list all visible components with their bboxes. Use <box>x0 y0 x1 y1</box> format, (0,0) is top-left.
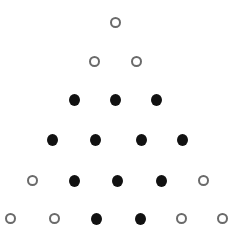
filled-circle-icon <box>90 134 101 146</box>
filled-circle-icon <box>177 134 188 146</box>
open-circle-icon <box>131 56 142 67</box>
open-circle-icon <box>89 56 100 67</box>
open-circle-icon <box>217 213 228 224</box>
filled-circle-icon <box>135 213 146 225</box>
filled-circle-icon <box>47 134 58 146</box>
dot-triangle-diagram <box>0 0 240 232</box>
open-circle-icon <box>27 175 38 186</box>
open-circle-icon <box>176 213 187 224</box>
filled-circle-icon <box>69 175 80 187</box>
open-circle-icon <box>110 17 121 28</box>
open-circle-icon <box>49 213 60 224</box>
filled-circle-icon <box>91 213 102 225</box>
filled-circle-icon <box>156 175 167 187</box>
filled-circle-icon <box>69 94 80 106</box>
open-circle-icon <box>198 175 209 186</box>
open-circle-icon <box>5 213 16 224</box>
filled-circle-icon <box>136 134 147 146</box>
filled-circle-icon <box>112 175 123 187</box>
filled-circle-icon <box>110 94 121 106</box>
filled-circle-icon <box>151 94 162 106</box>
